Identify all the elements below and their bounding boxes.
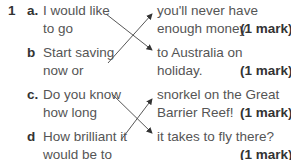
answer-3-line2: Barrier Reef! xyxy=(157,105,234,121)
item-b-line2: now or xyxy=(43,63,84,79)
answer-3-line1: snorkel on the Great xyxy=(157,87,279,103)
item-letter-d: d xyxy=(27,129,35,145)
item-a-line2: to go xyxy=(43,21,73,37)
item-a-line1: I would like xyxy=(43,3,110,19)
answer-4-mark: (1 mark) xyxy=(240,147,291,160)
question-number: 1 xyxy=(8,3,16,19)
item-letter-a: a. xyxy=(27,3,38,19)
answer-1-mark: (1 mark) xyxy=(240,21,291,37)
item-b-line1: Start saving xyxy=(43,45,114,61)
answer-4-line1: it takes to fly there? xyxy=(157,129,274,145)
answer-1-line2: enough money. xyxy=(157,21,249,37)
answer-2-line2: holiday. xyxy=(157,63,203,79)
answer-2-mark: (1 mark) xyxy=(240,63,291,79)
item-d-line1: How brilliant it xyxy=(43,129,127,145)
answer-2-line1: to Australia on xyxy=(157,45,243,61)
answer-1-line1: you'll never have xyxy=(157,3,258,19)
arrow-b-to-money xyxy=(108,14,152,63)
answer-3-mark: (1 mark) xyxy=(240,105,291,121)
item-c-line2: how long xyxy=(43,105,97,121)
item-c-line1: Do you know xyxy=(43,87,121,103)
item-letter-c: c. xyxy=(27,87,38,103)
item-d-line2: would be to xyxy=(43,147,112,160)
item-letter-b: b xyxy=(27,45,35,61)
